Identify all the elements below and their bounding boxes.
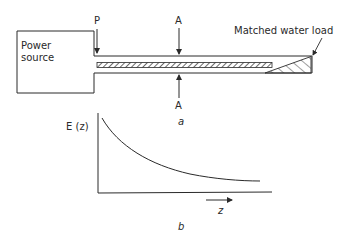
power-source-label-line2: source [21,52,54,63]
waveguide-diagram: Power source P A A Matched water load a [0,0,350,240]
section-a-bottom-label: A [175,100,182,111]
x-axis [98,192,272,193]
port-p-label: P [94,15,100,26]
y-axis-label: E (z) [66,121,89,132]
caption-b: b [178,221,184,232]
section-a-top-label: A [175,15,182,26]
part-b: E (z) z b [66,113,272,232]
dielectric-rod [97,63,272,68]
x-axis-label: z [217,205,224,216]
water-load-leader [313,38,322,55]
caption-a: a [178,116,184,127]
diagram-svg: Power source P A A Matched water load a [0,0,350,240]
water-load-label: Matched water load [234,25,333,36]
power-source-label-line1: Power [21,40,52,51]
part-a: Power source P A A Matched water load a [17,15,333,127]
field-decay-curve [102,118,260,181]
